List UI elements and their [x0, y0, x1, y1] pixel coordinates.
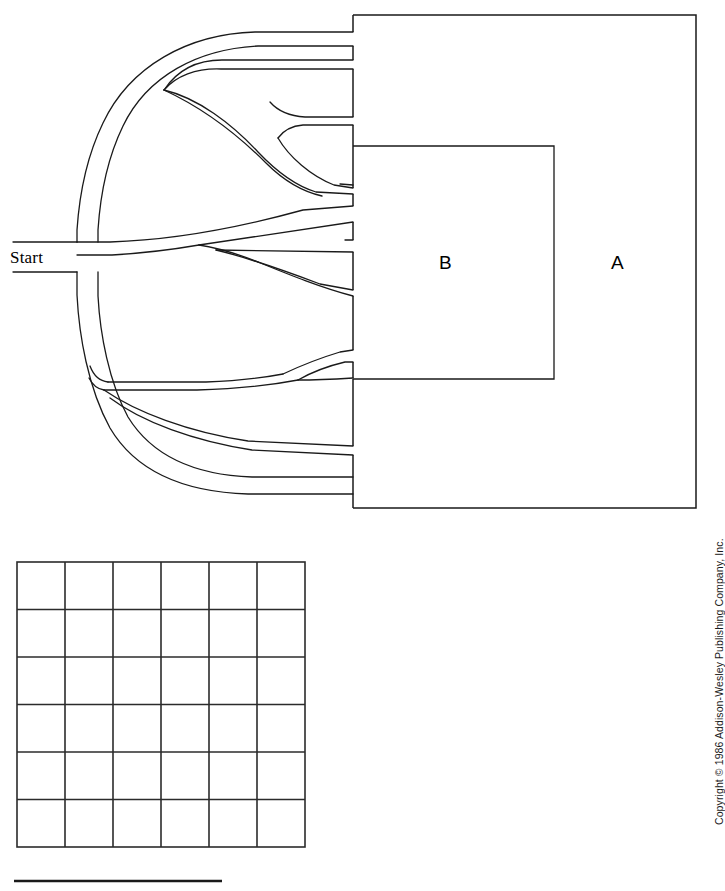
start-label: Start — [10, 248, 43, 268]
region-b-outline — [353, 146, 554, 379]
region-b-label: B — [439, 252, 452, 274]
region-a-label: A — [611, 252, 624, 274]
maze-corridor-walls — [13, 32, 353, 494]
answer-grid[interactable] — [17, 562, 305, 847]
region-a-outline — [353, 15, 696, 508]
copyright-notice: Copyright © 1986 Addison-Wesley Publishi… — [713, 538, 725, 825]
